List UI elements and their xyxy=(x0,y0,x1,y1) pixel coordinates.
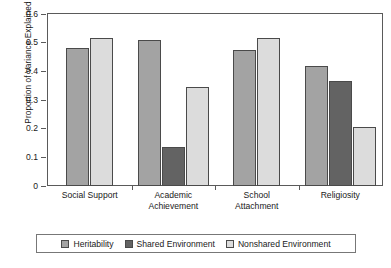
x-axis-label-line: Social Support xyxy=(48,190,132,201)
x-axis-label: AcademicAchievement xyxy=(132,190,216,212)
y-axis-tick-label: 0.4 xyxy=(0,66,38,76)
legend-item[interactable]: Heritability xyxy=(61,239,113,249)
y-axis-tick-label: 0.1 xyxy=(0,152,38,162)
bar-nonshared xyxy=(257,38,280,186)
y-axis-tick-mark xyxy=(41,186,46,187)
bar-group xyxy=(215,14,299,186)
bar-nonshared xyxy=(186,87,209,186)
legend-swatch-icon xyxy=(61,240,69,248)
bar-heritability xyxy=(305,66,328,186)
bar-nonshared xyxy=(90,38,113,186)
legend-item[interactable]: Shared Environment xyxy=(125,239,215,249)
y-axis-tick-label: 0.6 xyxy=(0,9,38,19)
legend-swatch-icon xyxy=(125,240,133,248)
bar-heritability xyxy=(138,40,161,186)
bar-nonshared xyxy=(353,127,376,186)
y-axis-tick-label: 0 xyxy=(0,181,38,191)
y-axis-tick-mark xyxy=(41,42,46,43)
legend-label: Nonshared Environment xyxy=(238,239,331,249)
y-axis-tick-mark xyxy=(41,128,46,129)
x-axis-label: Religiosity xyxy=(299,190,383,201)
bar-group xyxy=(132,14,216,186)
legend-label: Shared Environment xyxy=(137,239,215,249)
y-axis-tick-label: 0.5 xyxy=(0,37,38,47)
legend-swatch-icon xyxy=(226,240,234,248)
legend-label: Heritability xyxy=(73,239,113,249)
y-axis-tick-mark xyxy=(41,157,46,158)
y-axis-tick-label: 0.2 xyxy=(0,123,38,133)
bar-shared xyxy=(329,81,352,186)
y-axis-tick-mark xyxy=(41,100,46,101)
y-axis-tick-label: 0.3 xyxy=(0,95,38,105)
bar-group xyxy=(299,14,383,186)
bar-shared xyxy=(162,147,185,186)
x-axis-label-line: Attachment xyxy=(215,201,299,212)
x-axis-label-line: School xyxy=(215,190,299,201)
legend-item[interactable]: Nonshared Environment xyxy=(226,239,331,249)
bar-group xyxy=(48,14,132,186)
y-axis-tick-mark xyxy=(41,71,46,72)
x-axis-label: Social Support xyxy=(48,190,132,201)
x-axis-label-line: Academic xyxy=(132,190,216,201)
bars-layer xyxy=(48,14,382,186)
chart-page: Proportion of Variance Explained 0.60.50… xyxy=(0,0,391,268)
chart-legend: HeritabilityShared EnvironmentNonshared … xyxy=(36,234,356,253)
y-axis-tick-mark xyxy=(41,14,46,15)
bar-heritability xyxy=(233,50,256,186)
x-axis-label-line: Religiosity xyxy=(299,190,383,201)
x-axis-label: SchoolAttachment xyxy=(215,190,299,212)
x-axis-label-line: Achievement xyxy=(132,201,216,212)
bar-heritability xyxy=(66,48,89,186)
